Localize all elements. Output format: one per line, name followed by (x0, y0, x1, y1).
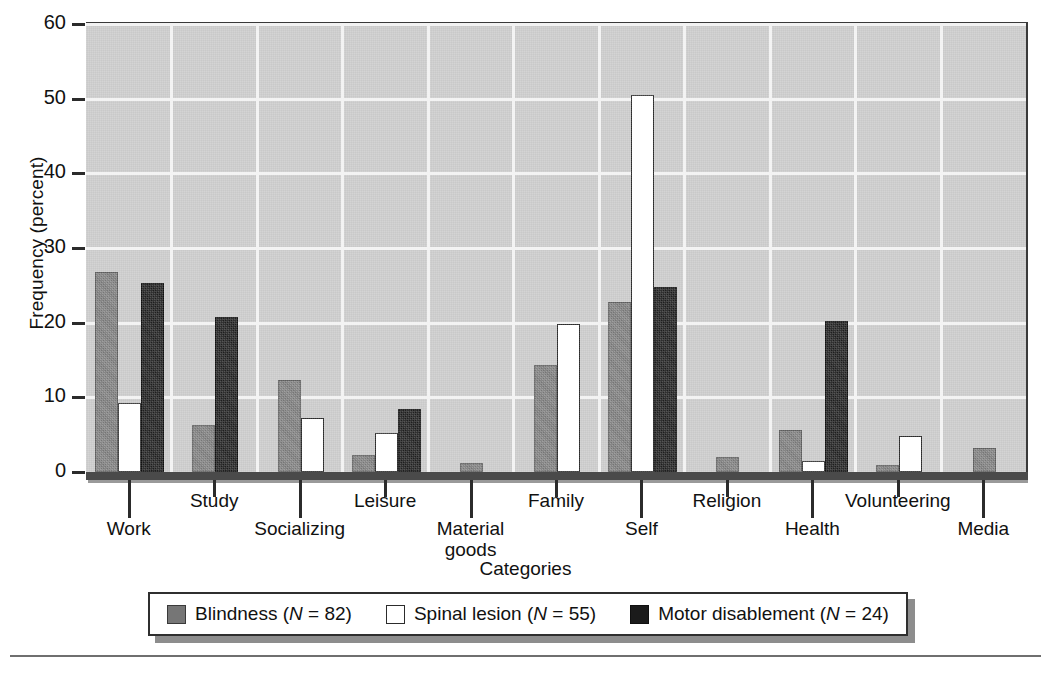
x-category-label: Health (717, 518, 907, 539)
gridline-vertical (854, 24, 857, 472)
bar (534, 365, 557, 472)
x-axis-shadow (88, 480, 1028, 483)
gridline-vertical (769, 24, 772, 472)
x-category-label: Family (461, 490, 651, 511)
gridline-vertical (170, 24, 173, 472)
y-tick-mark (72, 23, 85, 26)
bar (557, 324, 580, 472)
legend-label: Motor disablement (N = 24) (658, 603, 889, 625)
gridline-vertical (341, 24, 344, 472)
x-category-label: Leisure (290, 490, 480, 511)
bar (301, 418, 324, 472)
legend-label: Spinal lesion (N = 55) (414, 603, 596, 625)
bar (876, 465, 899, 472)
gridline-vertical (256, 24, 259, 472)
y-tick-label: 30 (4, 235, 66, 258)
x-category-label: Work (34, 518, 224, 539)
y-tick-label: 20 (4, 310, 66, 333)
x-category-label: Materialgoods (376, 518, 566, 560)
bar (825, 321, 848, 472)
figure: Frequency (percent) 0102030405060 WorkSt… (0, 0, 1051, 673)
bar (460, 463, 483, 472)
y-tick-mark (72, 322, 85, 325)
y-tick-label: 10 (4, 384, 66, 407)
legend-item: Motor disablement (N = 24) (630, 603, 889, 625)
bar (95, 272, 118, 472)
bar (278, 380, 301, 472)
x-axis-line (86, 472, 1028, 480)
gridline-horizontal (86, 23, 1026, 26)
gridline-horizontal (86, 98, 1026, 101)
gridline-horizontal (86, 172, 1026, 175)
x-category-label: Study (119, 490, 309, 511)
bar (654, 287, 677, 472)
legend-label: Blindness (N = 82) (195, 603, 352, 625)
legend-swatch-white (386, 605, 405, 624)
y-tick-mark (72, 396, 85, 399)
y-tick-mark (72, 98, 85, 101)
bar (215, 317, 238, 472)
bar (141, 283, 164, 472)
y-tick-label: 60 (4, 11, 66, 34)
x-category-label: Religion (632, 490, 822, 511)
bar (802, 461, 825, 472)
footer-rule (10, 655, 1041, 657)
bar (192, 425, 215, 472)
x-category-label: Media (888, 518, 1051, 539)
x-category-label: Socializing (205, 518, 395, 539)
bar (118, 403, 141, 472)
legend-swatch-black (630, 605, 649, 624)
x-category-label: Volunteering (803, 490, 993, 511)
y-tick-mark (72, 471, 85, 474)
bar (973, 448, 996, 472)
bar (899, 436, 922, 472)
bar (779, 430, 802, 472)
y-tick-mark (72, 247, 85, 250)
bar (398, 409, 421, 472)
y-tick-label: 50 (4, 86, 66, 109)
bar (375, 433, 398, 472)
gridline-vertical (427, 24, 430, 472)
y-tick-mark (72, 172, 85, 175)
x-axis-title: Categories (0, 558, 1051, 580)
bar (631, 95, 654, 472)
legend-swatch-gray (167, 605, 186, 624)
bar (608, 302, 631, 472)
y-tick-label: 0 (4, 459, 66, 482)
bar (716, 457, 739, 472)
gridline-vertical (598, 24, 601, 472)
gridline-vertical (512, 24, 515, 472)
bar (352, 455, 375, 472)
plot-area (86, 24, 1026, 472)
x-category-label: Self (546, 518, 736, 539)
y-tick-label: 40 (4, 160, 66, 183)
gridline-vertical (940, 24, 943, 472)
gridline-vertical (683, 24, 686, 472)
legend-item: Spinal lesion (N = 55) (386, 603, 596, 625)
gridline-horizontal (86, 247, 1026, 250)
chart-legend: Blindness (N = 82)Spinal lesion (N = 55)… (148, 592, 908, 636)
legend-item: Blindness (N = 82) (167, 603, 352, 625)
